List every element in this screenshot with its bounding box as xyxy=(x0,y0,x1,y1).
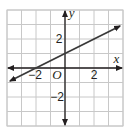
y-tick-label: −2 xyxy=(50,90,64,104)
origin-label: O xyxy=(52,67,62,82)
x-axis-label: x xyxy=(113,51,120,66)
y-tick-label: 2 xyxy=(56,32,63,46)
x-tick-label: −2 xyxy=(28,68,42,82)
y-axis-label: y xyxy=(67,5,75,20)
x-tick-label: 2 xyxy=(91,68,98,82)
coordinate-plane: x y O −2 2 2 −2 xyxy=(0,0,128,134)
